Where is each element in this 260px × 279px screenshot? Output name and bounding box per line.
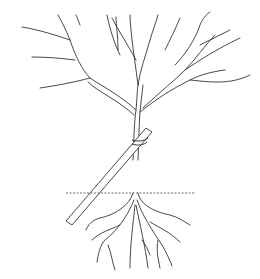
branches [22, 12, 250, 160]
roots [86, 193, 190, 270]
tree-illustration [0, 0, 260, 279]
stake [66, 128, 152, 225]
